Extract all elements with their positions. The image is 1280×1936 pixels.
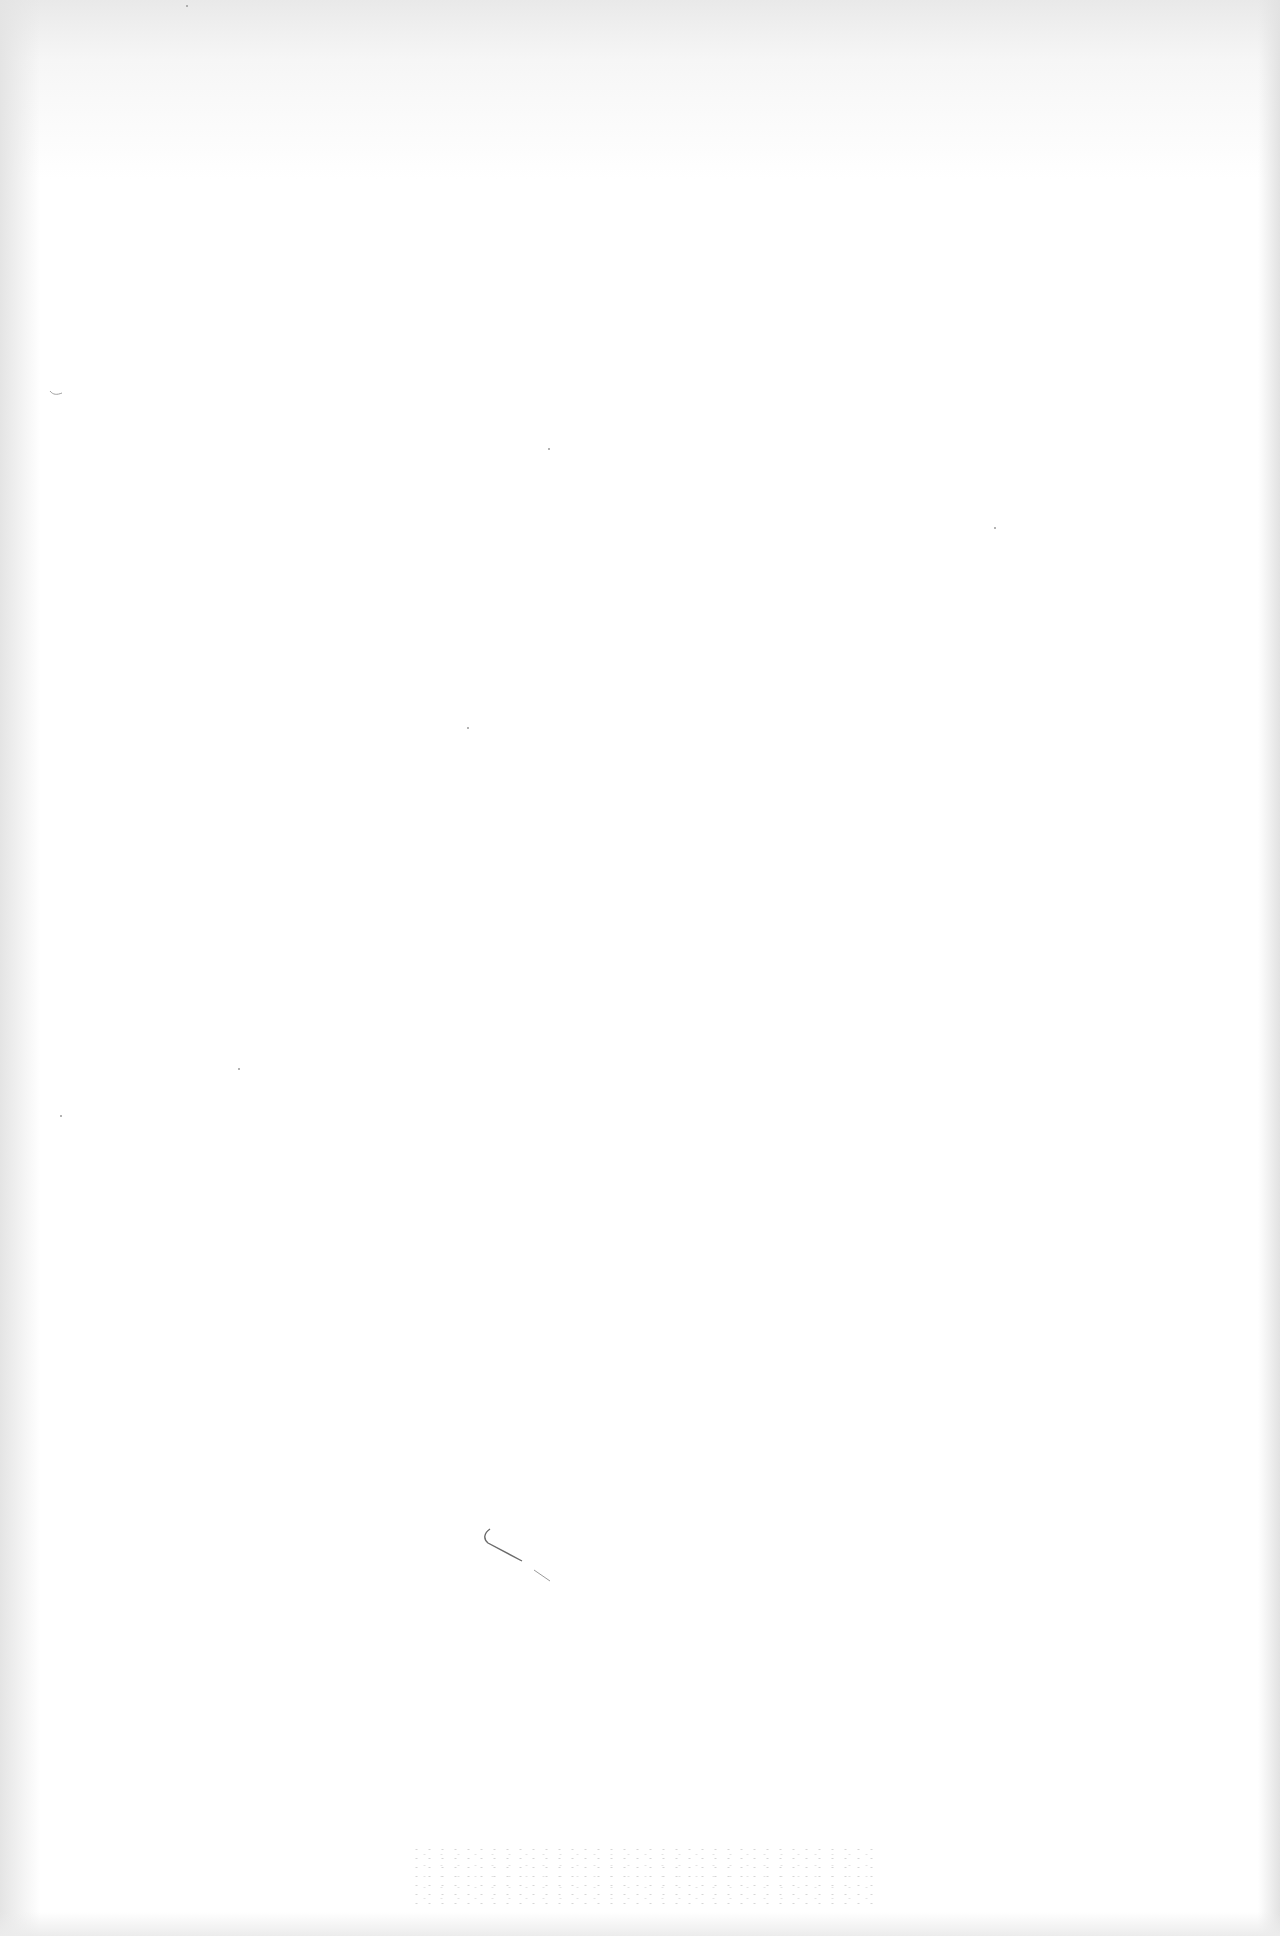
speck xyxy=(186,5,188,7)
speck xyxy=(238,1068,240,1070)
margin-mark xyxy=(48,388,68,398)
pen-stroke-mark xyxy=(480,1525,560,1605)
bleed-through-noise xyxy=(410,1845,880,1905)
page-edge-shadow-bottom xyxy=(0,1912,1280,1936)
page-edge-shadow-left xyxy=(0,0,40,1936)
speck xyxy=(467,727,469,729)
page-edge-shadow-right xyxy=(1258,0,1280,1936)
speck xyxy=(60,1115,62,1117)
blank-scanned-page xyxy=(0,0,1280,1936)
speck xyxy=(548,448,550,450)
speck xyxy=(994,527,996,529)
